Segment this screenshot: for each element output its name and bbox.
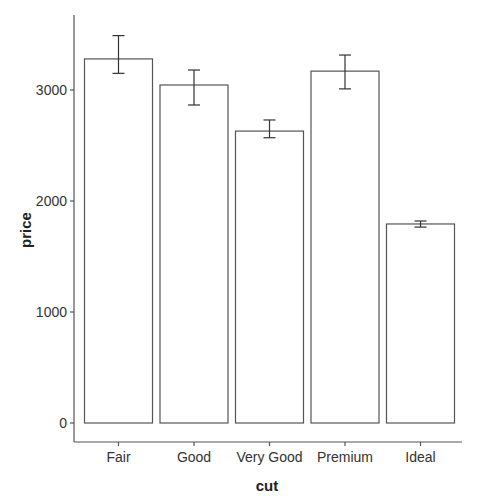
y-tick-label: 2000: [36, 193, 67, 209]
bar-chart: 0100020003000 FairGoodVery GoodPremiumId…: [0, 0, 483, 499]
y-axis-ticks: 0100020003000: [36, 82, 74, 431]
y-tick-label: 0: [59, 415, 67, 431]
bar-premium: [311, 71, 379, 423]
x-axis-ticks: FairGoodVery GoodPremiumIdeal: [106, 442, 435, 465]
bar-fair: [85, 59, 153, 423]
x-tick-label: Very Good: [236, 449, 302, 465]
y-tick-label: 3000: [36, 82, 67, 98]
x-tick-label: Fair: [106, 449, 130, 465]
y-axis-title: price: [17, 212, 34, 248]
x-tick-label: Good: [177, 449, 211, 465]
x-tick-label: Ideal: [405, 449, 435, 465]
bars-group: [85, 59, 455, 423]
x-axis-title: cut: [256, 477, 279, 494]
x-tick-label: Premium: [317, 449, 373, 465]
bar-very-good: [236, 131, 304, 423]
bar-ideal: [387, 224, 455, 423]
y-tick-label: 1000: [36, 304, 67, 320]
bar-good: [160, 85, 228, 423]
